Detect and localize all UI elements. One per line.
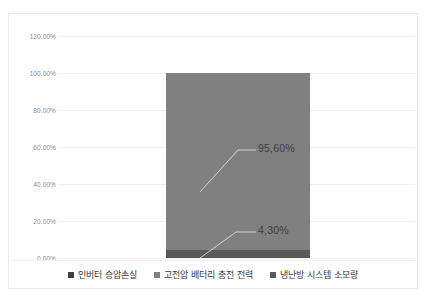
legend-label: 인버터 승압손실 [78,268,137,281]
legend-item-inverter-boost-loss[interactable]: 인버터 승압손실 [68,268,137,281]
y-tick-label: 100.00% [10,70,56,77]
legend-swatch-icon [270,272,276,278]
legend: 인버터 승압손실 고전압 배터리 충전 전력 냉난방 시스템 소모량 [9,268,417,281]
legend-divider [10,260,416,261]
y-tick-label: 80.00% [10,106,56,113]
legend-swatch-icon [68,272,74,278]
chart-container: 120.00% 100.00% 80.00% 60.00% 40.00% 20.… [0,0,427,298]
y-tick-label: 60.00% [10,144,56,151]
plot-area: 95,60% 4,30% [58,36,415,258]
leader-line-upper [198,146,258,194]
legend-label: 고전압 배터리 충전 전력 [164,268,253,281]
gridline [58,36,415,37]
legend-item-hv-battery-charging-power[interactable]: 고전압 배터리 충전 전력 [154,268,253,281]
legend-item-hvac-consumption[interactable]: 냉난방 시스템 소모량 [270,268,358,281]
chart-frame: 120.00% 100.00% 80.00% 60.00% 40.00% 20.… [8,13,418,289]
data-label-lower: 4,30% [258,224,289,236]
y-tick-label: 20.00% [10,217,56,224]
data-label-upper: 95,60% [258,142,295,154]
y-tick-label: 120.00% [10,33,56,40]
legend-swatch-icon [154,272,160,278]
y-tick-label: 40.00% [10,181,56,188]
legend-label: 냉난방 시스템 소모량 [280,268,358,281]
leader-line-lower [198,226,258,260]
y-axis: 120.00% 100.00% 80.00% 60.00% 40.00% 20.… [9,36,56,258]
